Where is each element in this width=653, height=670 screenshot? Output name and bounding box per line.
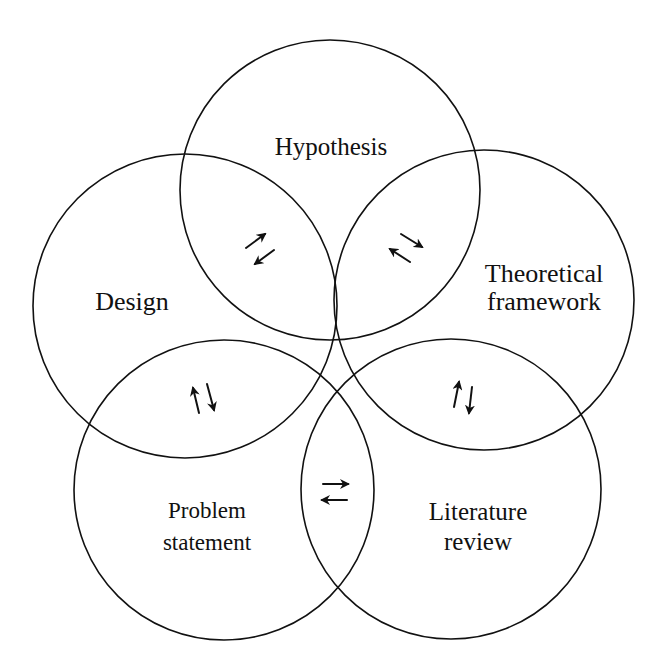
circle-hypothesis (180, 40, 480, 340)
circle-literature-review (301, 339, 601, 639)
arrow-down-icon (469, 387, 472, 413)
arrow-up-right-icon (246, 234, 265, 248)
circles (33, 40, 634, 640)
label-theoretical-framework-line2: framework (487, 287, 601, 316)
arrow-up-icon (193, 388, 199, 413)
arrows-problem-design (193, 384, 214, 413)
arrow-up-icon (454, 382, 459, 407)
arrows-literature-problem (322, 484, 348, 500)
label-literature-review-line2: review (444, 528, 512, 555)
label-problem-statement-line1: Problem (168, 498, 246, 523)
arrows-hypothesis-theoretical (390, 234, 422, 262)
circle-problem-statement (74, 340, 374, 640)
label-theoretical-framework-line1: Theoretical (485, 259, 603, 288)
label-literature-review-line1: Literature (429, 498, 528, 525)
label-problem-statement-line2: statement (163, 530, 252, 555)
arrow-up-left-icon (390, 249, 410, 262)
arrows-design-hypothesis (246, 234, 274, 264)
arrow-down-right-icon (401, 234, 422, 247)
circle-design (33, 154, 337, 458)
research-process-diagram: Hypothesis Theoretical framework Literat… (0, 0, 653, 670)
label-hypothesis: Hypothesis (275, 133, 388, 160)
arrows-theoretical-literature (454, 382, 472, 413)
labels: Hypothesis Theoretical framework Literat… (95, 133, 603, 555)
label-design: Design (95, 287, 169, 316)
arrow-down-left-icon (255, 250, 274, 264)
arrow-down-icon (207, 384, 214, 410)
